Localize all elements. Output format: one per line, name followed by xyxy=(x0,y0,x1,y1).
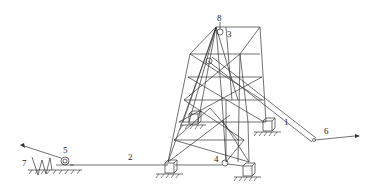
diagram-svg xyxy=(0,0,369,196)
foundation-back-right xyxy=(254,118,281,136)
winch-anchor xyxy=(20,143,82,175)
label-1: 1 xyxy=(284,118,289,127)
ground-pulley-icon xyxy=(222,160,228,166)
label-4: 4 xyxy=(214,155,219,164)
tower-erection-diagram: 1 2 3 4 5 6 7 8 xyxy=(0,0,369,196)
label-7: 7 xyxy=(22,159,27,168)
foundation-front-right xyxy=(234,163,261,181)
label-8: 8 xyxy=(217,14,222,23)
label-2: 2 xyxy=(128,153,133,162)
foundation-front-left xyxy=(156,160,183,178)
top-pulley-icon xyxy=(217,29,223,35)
label-6: 6 xyxy=(324,127,329,136)
label-3: 3 xyxy=(227,30,232,39)
label-5: 5 xyxy=(63,146,68,155)
winch-icon xyxy=(61,157,69,165)
pull-rope xyxy=(315,134,360,140)
